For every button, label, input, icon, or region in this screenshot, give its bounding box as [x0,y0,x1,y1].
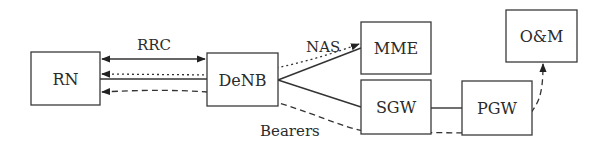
node-rn: RN [31,52,100,105]
node-sgw: SGW [361,80,431,134]
node-mme: MME [361,22,431,74]
denb-sgw-link [278,80,361,107]
node-label-rn: RN [52,70,78,89]
edge-label-rrc: RRC [137,36,171,54]
node-denb: DeNB [207,53,278,106]
node-pgw: PGW [462,81,532,135]
node-label-mme: MME [374,39,418,58]
node-label-om: O&M [520,27,564,46]
edge-label-nas: NAS [306,38,340,56]
node-label-pgw: PGW [477,99,518,118]
network-diagram: RN DeNB MME SGW PGW O&M RRC NAS Bearers [0,0,607,155]
edge-label-bearers: Bearers [260,122,320,140]
node-om: O&M [506,10,577,62]
node-label-denb: DeNB [218,71,266,90]
node-label-sgw: SGW [376,98,417,117]
